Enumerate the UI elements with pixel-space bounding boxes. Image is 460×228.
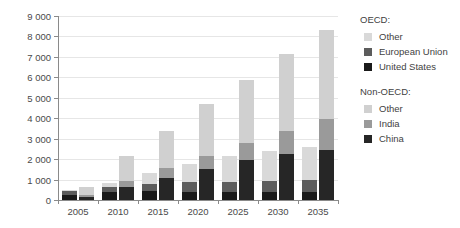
bar-group [218, 16, 258, 200]
bar-segment[interactable] [182, 192, 197, 200]
bar-segment[interactable] [239, 80, 254, 143]
legend-swatch-icon [364, 33, 372, 41]
legend-group-oecd: OtherEuropean UnionUnited States [360, 29, 458, 74]
bar-segment[interactable] [159, 131, 174, 168]
legend-item-oecd-united-states[interactable]: United States [364, 59, 458, 74]
legend-item-nonoecd-other[interactable]: Other [364, 101, 458, 116]
bar-segment[interactable] [279, 131, 294, 155]
legend-swatch-icon [364, 63, 372, 71]
x-axis-line [58, 200, 338, 201]
bar-non-oecd-2035[interactable] [319, 30, 334, 200]
bar-non-oecd-2020[interactable] [199, 104, 214, 200]
bar-non-oecd-2030[interactable] [279, 54, 294, 200]
legend: OECD: OtherEuropean UnionUnited States N… [360, 14, 458, 146]
legend-swatch-icon [364, 105, 372, 113]
x-tick-mark [178, 200, 179, 204]
bar-segment[interactable] [199, 169, 214, 200]
bar-segment[interactable] [222, 182, 237, 193]
bar-segment[interactable] [182, 182, 197, 192]
bar-segment[interactable] [62, 195, 77, 200]
bar-non-oecd-2010[interactable] [119, 156, 134, 200]
bar-segment[interactable] [319, 119, 334, 150]
bar-segment[interactable] [319, 30, 334, 119]
x-tick-mark [218, 200, 219, 204]
legend-label: Other [379, 103, 403, 114]
y-tick-label: 2 000 [7, 154, 51, 165]
bar-oecd-2035[interactable] [302, 147, 317, 200]
legend-swatch-icon [364, 135, 372, 143]
x-tick-mark [338, 200, 339, 204]
bar-oecd-2025[interactable] [222, 156, 237, 200]
bar-segment[interactable] [262, 192, 277, 200]
bar-oecd-2030[interactable] [262, 151, 277, 200]
bar-segment[interactable] [262, 181, 277, 192]
bar-segment[interactable] [119, 156, 134, 181]
bar-segment[interactable] [102, 192, 117, 200]
bar-segment[interactable] [302, 147, 317, 180]
bar-group [98, 16, 138, 200]
bar-segment[interactable] [239, 143, 254, 160]
legend-heading-oecd: OECD: [360, 14, 458, 25]
plot-area: 01 0002 0003 0004 0005 0006 0007 0008 00… [58, 16, 338, 201]
bar-segment[interactable] [79, 187, 94, 195]
y-tick-label: 1 000 [7, 174, 51, 185]
x-tick-mark [58, 200, 59, 204]
bar-segment[interactable] [222, 156, 237, 181]
bar-segment[interactable] [142, 191, 157, 200]
bar-oecd-2015[interactable] [142, 173, 157, 200]
legend-group-nonoecd: OtherIndiaChina [360, 101, 458, 146]
bar-segment[interactable] [79, 197, 94, 200]
y-tick-label: 5 000 [7, 92, 51, 103]
legend-label: India [379, 118, 400, 129]
bar-segment[interactable] [222, 192, 237, 200]
x-tick-label: 2035 [288, 206, 348, 217]
legend-item-nonoecd-india[interactable]: India [364, 116, 458, 131]
bar-segment[interactable] [319, 150, 334, 200]
bar-segment[interactable] [279, 154, 294, 200]
bar-segment[interactable] [302, 192, 317, 200]
bar-group [298, 16, 338, 200]
bar-segment[interactable] [239, 160, 254, 200]
bar-segment[interactable] [142, 184, 157, 192]
x-tick-mark [138, 200, 139, 204]
y-tick-label: 0 [7, 195, 51, 206]
bar-segment[interactable] [182, 164, 197, 182]
legend-label: Other [379, 31, 403, 42]
bar-segment[interactable] [262, 151, 277, 180]
bar-non-oecd-2015[interactable] [159, 131, 174, 201]
bar-segment[interactable] [159, 178, 174, 200]
bar-group [138, 16, 178, 200]
legend-item-oecd-european-union[interactable]: European Union [364, 44, 458, 59]
bar-segment[interactable] [142, 173, 157, 183]
legend-swatch-icon [364, 48, 372, 56]
y-tick-label: 9 000 [7, 11, 51, 22]
legend-item-nonoecd-china[interactable]: China [364, 131, 458, 146]
bar-group [58, 16, 98, 200]
bar-segment[interactable] [119, 187, 134, 200]
legend-swatch-icon [364, 120, 372, 128]
y-tick-label: 3 000 [7, 133, 51, 144]
bar-segment[interactable] [159, 168, 174, 178]
legend-item-oecd-other[interactable]: Other [364, 29, 458, 44]
legend-label: China [379, 133, 404, 144]
x-tick-mark [258, 200, 259, 204]
bar-segment[interactable] [119, 181, 134, 188]
bar-segment[interactable] [199, 156, 214, 169]
bar-oecd-2005[interactable] [62, 190, 77, 200]
bar-segment[interactable] [279, 54, 294, 131]
y-tick-label: 4 000 [7, 113, 51, 124]
bar-oecd-2010[interactable] [102, 183, 117, 200]
bar-segment[interactable] [302, 180, 317, 192]
bar-non-oecd-2005[interactable] [79, 187, 94, 200]
x-tick-mark [98, 200, 99, 204]
x-tick-mark [298, 200, 299, 204]
y-tick-label: 7 000 [7, 51, 51, 62]
y-tick-label: 6 000 [7, 72, 51, 83]
y-tick-label: 8 000 [7, 31, 51, 42]
legend-heading-nonoecd: Non-OECD: [360, 86, 458, 97]
bar-segment[interactable] [199, 104, 214, 156]
bar-group [258, 16, 298, 200]
bar-non-oecd-2025[interactable] [239, 80, 254, 200]
legend-label: European Union [379, 46, 448, 57]
bar-oecd-2020[interactable] [182, 164, 197, 200]
